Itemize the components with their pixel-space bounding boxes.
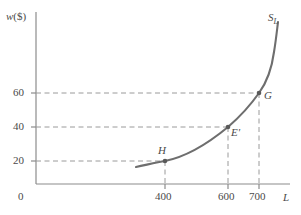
labor-supply-curve-figure: w($) L 0 20 40 60 400 600 700 H E' G SL bbox=[0, 0, 301, 215]
point-label-eprime: E' bbox=[231, 127, 240, 138]
point-label-g: G bbox=[264, 90, 272, 101]
y-axis-label-units: ($) bbox=[13, 10, 26, 22]
point-marker-g bbox=[257, 91, 262, 96]
chart-canvas bbox=[0, 0, 301, 215]
y-tick-label-20: 20 bbox=[13, 155, 24, 166]
x-tick-label-400: 400 bbox=[155, 191, 172, 202]
point-marker-h bbox=[163, 159, 168, 164]
y-tick-label-40: 40 bbox=[13, 121, 24, 132]
origin-label: 0 bbox=[18, 191, 24, 202]
x-tick-label-600: 600 bbox=[218, 191, 235, 202]
x-axis-label: L bbox=[283, 192, 289, 203]
point-label-h: H bbox=[158, 145, 166, 156]
y-tick-label-60: 60 bbox=[13, 87, 24, 98]
curve-label-subscript: L bbox=[274, 17, 278, 26]
point-marker-eprime bbox=[226, 125, 231, 130]
y-axis-label: w($) bbox=[6, 11, 26, 22]
x-tick-label-700: 700 bbox=[249, 191, 266, 202]
curve-label-supply: SL bbox=[268, 12, 278, 26]
